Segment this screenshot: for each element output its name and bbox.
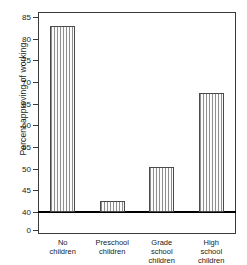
y-tick-label: 75 [1,56,31,65]
y-tick-label: 80 [1,34,31,43]
bar [50,26,75,212]
x-tick-label-line: children [187,256,237,265]
y-tick-label: 50 [1,164,31,173]
y-tick-mark [33,125,38,126]
x-tick-label: Nochildren [38,238,88,256]
y-tick-mark [33,82,38,83]
bar [100,201,125,212]
bar [199,93,224,212]
x-tick-label-line: High [187,238,237,247]
x-tick-label: Preschoolchildren [88,238,138,256]
y-tick-label: 45 [1,186,31,195]
x-tick-label-line: No [38,238,88,247]
bar [149,167,174,213]
y-tick-label: 65 [1,99,31,108]
y-tick-label: 70 [1,78,31,87]
x-tick-label: Highschoolchildren [187,238,237,265]
x-tick-label-line: children [88,247,138,256]
x-tick-label: Gradeschoolchildren [137,238,187,265]
y-tick-label: 60 [1,121,31,130]
y-tick-mark [33,169,38,170]
y-tick-mark [33,190,38,191]
x-tick-label-line: children [38,247,88,256]
x-tick-label-line: school [137,247,187,256]
x-tick-label-line: children [137,256,187,265]
x-tick-label-line: school [187,247,237,256]
bar-chart-figure: Percent approving of working 40455055606… [0,0,247,265]
x-tick-label-line: Preschool [88,238,138,247]
y-tick-label-zero: 0 [1,226,31,235]
x-tick-label-line: Grade [137,238,187,247]
y-tick-mark [33,104,38,105]
y-tick-mark-zero [33,230,38,231]
y-tick-label: 85 [1,13,31,22]
y-tick-mark [33,147,38,148]
y-tick-label: 55 [1,143,31,152]
y-tick-mark [33,39,38,40]
y-tick-mark [33,60,38,61]
y-tick-mark [33,17,38,18]
y-tick-label: 40 [1,208,31,217]
